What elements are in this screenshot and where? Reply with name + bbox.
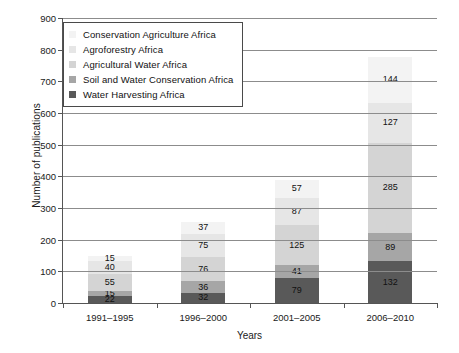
x-axis-category-label: 2006–2010: [366, 312, 414, 323]
bar-segment-value-label: 144: [383, 75, 398, 84]
x-axis-category-label: 2001–2005: [273, 312, 321, 323]
bar-segment-value-label: 132: [383, 278, 398, 287]
bar-segment[interactable]: 15: [88, 256, 132, 261]
legend-item[interactable]: Agroforestry Africa: [69, 42, 233, 57]
bar-segment[interactable]: 75: [181, 234, 225, 258]
gridline: [63, 240, 437, 241]
bar-segment[interactable]: 32: [181, 293, 225, 303]
gridline: [63, 208, 437, 209]
x-axis-category-label: 1996–2000: [179, 312, 227, 323]
legend-item-label: Water Harvesting Africa: [83, 89, 185, 100]
bar-segment-value-label: 89: [385, 243, 395, 252]
bar-group[interactable]: 2215554015: [88, 256, 132, 303]
legend-swatch-icon: [69, 61, 76, 68]
gridline: [63, 113, 437, 114]
gridline: [63, 271, 437, 272]
bar-segment-value-label: 75: [198, 241, 208, 250]
legend-item-label: Agroforestry Africa: [83, 44, 163, 55]
bar-segment-value-label: 37: [198, 223, 208, 232]
bar-segment-value-label: 76: [198, 265, 208, 274]
y-axis-tick-label: 700: [40, 76, 56, 87]
y-axis-tick-label: 900: [40, 13, 56, 24]
bar-segment-value-label: 57: [292, 184, 302, 193]
legend-swatch-icon: [69, 31, 76, 38]
bar-group[interactable]: 3236767537: [181, 222, 225, 303]
y-axis-tick: [58, 18, 63, 19]
y-axis-tick-label: 200: [40, 234, 56, 245]
legend-swatch-icon: [69, 46, 76, 53]
bar-segment[interactable]: 22: [88, 296, 132, 303]
bar-segment[interactable]: 285: [368, 143, 412, 233]
bar-segment[interactable]: 144: [368, 57, 412, 103]
legend-item[interactable]: Conservation Agriculture Africa: [69, 27, 233, 42]
bar-segment-value-label: 22: [105, 295, 115, 304]
y-axis-tick: [58, 240, 63, 241]
bar-segment-value-label: 127: [383, 118, 398, 127]
y-axis-tick: [58, 176, 63, 177]
y-axis-tick: [58, 271, 63, 272]
bar-segment[interactable]: 36: [181, 281, 225, 292]
y-axis-tick-label: 0: [51, 298, 56, 309]
x-axis-tick: [437, 303, 438, 308]
bar-segment[interactable]: 125: [275, 225, 319, 265]
gridline: [63, 18, 437, 19]
y-axis-tick-label: 400: [40, 171, 56, 182]
legend-swatch-icon: [69, 76, 76, 83]
bar-segment-value-label: 55: [105, 278, 115, 287]
gridline: [63, 176, 437, 177]
legend-item-label: Conservation Agriculture Africa: [83, 29, 216, 40]
y-axis-tick-label: 800: [40, 44, 56, 55]
bar-segment[interactable]: 132: [368, 261, 412, 303]
legend-item[interactable]: Agricultural Water Africa: [69, 57, 233, 72]
stacked-bar-chart: Number of publications 22155540153236767…: [0, 0, 459, 353]
bar-segment[interactable]: 57: [275, 180, 319, 198]
legend-item-label: Agricultural Water Africa: [83, 59, 187, 70]
x-axis-title: Years: [62, 330, 437, 341]
y-axis-tick: [58, 145, 63, 146]
bar-segment-value-label: 32: [198, 293, 208, 302]
bar-segment-value-label: 125: [289, 241, 304, 250]
gridline: [63, 145, 437, 146]
bar-segment[interactable]: 55: [88, 274, 132, 291]
x-axis-tick: [344, 303, 345, 308]
bar-segment-value-label: 79: [292, 286, 302, 295]
x-axis-tick: [157, 303, 158, 308]
y-axis-tick: [58, 208, 63, 209]
bar-segment[interactable]: 89: [368, 233, 412, 261]
legend-item[interactable]: Soil and Water Conservation Africa: [69, 72, 233, 87]
bar-group[interactable]: 79411258757: [275, 180, 319, 303]
bar-segment[interactable]: 15: [88, 291, 132, 296]
y-axis-tick-label: 600: [40, 108, 56, 119]
bar-segment[interactable]: 76: [181, 257, 225, 281]
bar-segment-value-label: 36: [198, 283, 208, 292]
legend-item[interactable]: Water Harvesting Africa: [69, 87, 233, 102]
y-axis-tick-label: 100: [40, 266, 56, 277]
chart-legend: Conservation Agriculture AfricaAgrofores…: [63, 22, 243, 107]
bar-segment-value-label: 285: [383, 183, 398, 192]
y-axis-tick: [58, 113, 63, 114]
legend-swatch-icon: [69, 91, 76, 98]
bar-segment[interactable]: 79: [275, 278, 319, 303]
bar-segment[interactable]: 127: [368, 103, 412, 143]
x-axis-tick: [63, 303, 64, 308]
bar-segment[interactable]: 37: [181, 222, 225, 234]
y-axis-tick-label: 300: [40, 203, 56, 214]
bar-group[interactable]: 13289285127144: [368, 57, 412, 303]
x-axis-category-label: 1991–1995: [86, 312, 134, 323]
y-axis-tick-label: 500: [40, 139, 56, 150]
x-axis-tick: [250, 303, 251, 308]
bar-segment[interactable]: 87: [275, 198, 319, 226]
legend-item-label: Soil and Water Conservation Africa: [83, 74, 233, 85]
